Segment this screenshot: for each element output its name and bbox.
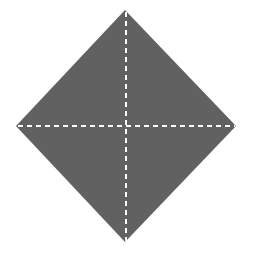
diagram-svg bbox=[0, 0, 253, 253]
figure-canvas bbox=[0, 0, 253, 253]
